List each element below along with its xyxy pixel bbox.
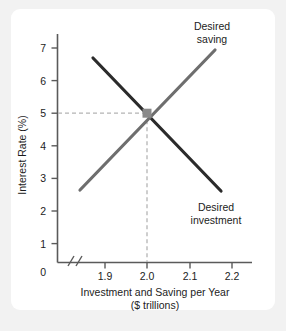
y-axis-title: Interest Rate (%) bbox=[16, 115, 28, 194]
desired-investment-label-line1: Desired bbox=[198, 201, 234, 213]
desired-saving-label-line1: Desired bbox=[194, 20, 230, 32]
y-tick-label-2: 2 bbox=[40, 205, 46, 217]
equilibrium-point-marker bbox=[143, 109, 152, 118]
axis-break-mark-1 bbox=[68, 256, 74, 266]
y-tick-label-7: 7 bbox=[40, 42, 46, 54]
desired-saving-curve bbox=[80, 50, 215, 190]
x-tick-label-2-2: 2.2 bbox=[225, 270, 240, 282]
desired-investment-curve bbox=[93, 58, 221, 191]
x-axis-title-line2: ($ trillions) bbox=[131, 299, 179, 311]
axis-break-mark-2 bbox=[76, 256, 82, 266]
y-tick-label-4: 4 bbox=[40, 140, 46, 152]
y-tick-label-0: 0 bbox=[40, 266, 46, 278]
y-tick-label-5: 5 bbox=[40, 107, 46, 119]
x-tick-label-2-1: 2.1 bbox=[183, 270, 198, 282]
x-tick-label-2-0: 2.0 bbox=[140, 270, 155, 282]
y-tick-label-6: 6 bbox=[40, 75, 46, 87]
x-tick-label-1-9: 1.9 bbox=[98, 270, 113, 282]
x-axis-title-line1: Investment and Saving per Year bbox=[81, 286, 230, 298]
desired-investment-label-line2: investment bbox=[191, 214, 242, 226]
y-tick-label-1: 1 bbox=[40, 238, 46, 250]
economics-supply-demand-chart: Interest Rate (%) 7 6 5 4 3 2 1 0 1.9 2.… bbox=[0, 0, 286, 331]
desired-saving-label-line2: saving bbox=[197, 33, 228, 45]
y-tick-label-3: 3 bbox=[40, 172, 46, 184]
figure-root: Interest Rate (%) 7 6 5 4 3 2 1 0 1.9 2.… bbox=[0, 0, 286, 331]
